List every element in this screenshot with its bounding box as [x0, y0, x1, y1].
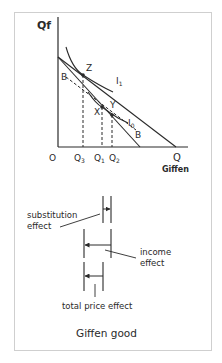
point-z [81, 73, 85, 77]
diagram-title: Giffen good [76, 327, 137, 339]
point-y [110, 113, 114, 117]
origin-label: O [49, 153, 56, 163]
tick-label-q2: Q2 [109, 153, 120, 164]
income-leader [105, 250, 136, 258]
budget-label-b-left: B [61, 72, 67, 82]
total-price-effect-label: total price effect [62, 301, 133, 311]
giffen-diagram: Qf Z X Y B B I1 I0 O Q3 Q1 Q2 Q Giffen s… [0, 0, 222, 363]
tick-label-q1: Q1 [94, 153, 105, 164]
substitution-effect-label: substitutioneffect [27, 210, 77, 231]
point-label-y: Y [109, 100, 116, 110]
budget-line-outer [58, 57, 176, 147]
point-label-x: X [94, 107, 100, 117]
income-effect-label: incomeeffect [140, 247, 171, 268]
x-axis-label: Q [173, 152, 181, 163]
curve-label-i0: I0 [128, 118, 135, 129]
point-x [100, 105, 104, 109]
tick-label-q3: Q3 [74, 153, 85, 164]
x-axis-sublabel: Giffen [162, 165, 189, 174]
budget-label-b-right: B [135, 130, 141, 140]
point-label-z: Z [86, 63, 92, 73]
curve-label-i1: I1 [116, 76, 123, 87]
y-axis-label: Qf [37, 19, 51, 32]
